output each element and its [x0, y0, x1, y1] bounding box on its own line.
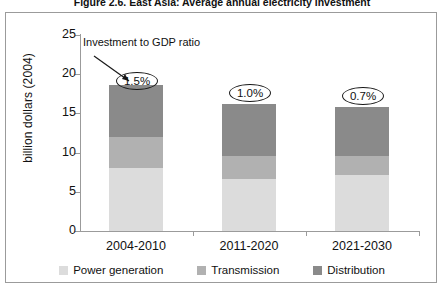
bar-segment-transmission[interactable]: [109, 137, 163, 169]
legend-swatch-icon: [59, 266, 68, 275]
bar-segment-transmission[interactable]: [222, 156, 276, 179]
y-tick-label: 5: [36, 184, 76, 198]
legend-item-power-generation[interactable]: Power generation: [59, 264, 163, 276]
x-tick-label: 2011-2020: [209, 239, 289, 253]
plot-area: Investment to GDP ratio 25 20 15 10 5 0 …: [80, 34, 420, 232]
bar-segment-generation[interactable]: [335, 175, 389, 231]
legend-swatch-icon: [197, 266, 206, 275]
bar-2021-2030[interactable]: [335, 107, 389, 231]
callout-2021-2030: 0.7%: [342, 87, 384, 105]
bar-segment-distribution[interactable]: [109, 85, 163, 137]
callout-2004-2010: 1.5%: [116, 72, 158, 90]
bar-segment-distribution[interactable]: [335, 107, 389, 156]
bar-2011-2020[interactable]: [222, 104, 276, 232]
chart-legend: Power generation Transmission Distributi…: [6, 264, 438, 276]
legend-label: Power generation: [73, 264, 163, 276]
bar-segment-generation[interactable]: [222, 179, 276, 231]
x-axis-line: [80, 231, 420, 232]
bar-segment-transmission[interactable]: [335, 156, 389, 175]
y-tick-label: 15: [36, 105, 76, 119]
x-tick: [306, 231, 307, 236]
legend-label: Transmission: [211, 264, 279, 276]
legend-item-transmission[interactable]: Transmission: [197, 264, 279, 276]
bar-segment-generation[interactable]: [109, 168, 163, 231]
annotation-label: Investment to GDP ratio: [83, 36, 200, 48]
x-tick-label: 2021-2030: [322, 239, 402, 253]
bar-2004-2010[interactable]: [109, 85, 163, 232]
y-tick-label: 10: [36, 145, 76, 159]
y-tick-label: 25: [36, 27, 76, 41]
y-tick-label: 0: [36, 223, 76, 237]
figure-caption: Figure 2.6. East Asia: Average annual el…: [0, 0, 444, 8]
callout-2011-2020: 1.0%: [229, 84, 271, 102]
y-tick-label: 20: [36, 66, 76, 80]
legend-swatch-icon: [313, 266, 322, 275]
x-tick: [419, 231, 420, 236]
y-axis-line: [80, 34, 81, 232]
x-tick-label: 2004-2010: [96, 239, 176, 253]
legend-item-distribution[interactable]: Distribution: [313, 264, 385, 276]
x-tick: [193, 231, 194, 236]
chart-frame: billion dollars (2004) Investment to GDP…: [5, 12, 437, 283]
legend-label: Distribution: [327, 264, 385, 276]
bar-segment-distribution[interactable]: [222, 104, 276, 156]
y-axis-title: billion dollars (2004): [21, 38, 35, 178]
